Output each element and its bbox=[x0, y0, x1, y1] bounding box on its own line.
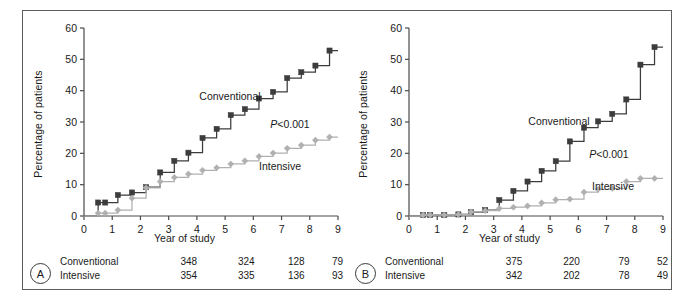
data-point-marker bbox=[539, 168, 544, 173]
series-line-intensive bbox=[84, 137, 338, 216]
risk-row-label: Intensive bbox=[385, 270, 469, 284]
risk-value: 136 bbox=[255, 270, 305, 284]
data-point-marker bbox=[298, 142, 304, 148]
data-point-marker bbox=[610, 111, 615, 116]
data-point-marker bbox=[524, 203, 530, 209]
data-point-marker bbox=[158, 170, 163, 175]
data-point-marker bbox=[172, 158, 177, 163]
data-point-marker bbox=[567, 139, 572, 144]
data-point-marker bbox=[525, 179, 530, 184]
table-row: Conventional 375 220 79 52 bbox=[385, 256, 668, 270]
data-point-marker bbox=[228, 161, 234, 167]
p-value-annotation: P<0.001 bbox=[589, 148, 629, 160]
panel-b-chart-svg: 01020304050600123456789ConventionalInten… bbox=[347, 10, 672, 248]
table-row: Intensive 354 335 136 93 bbox=[60, 270, 343, 284]
data-point-marker bbox=[214, 126, 219, 131]
panel-a-plot: Percentage of patients 01020304050600123… bbox=[22, 10, 347, 248]
risk-value: 354 bbox=[144, 270, 197, 284]
data-point-marker bbox=[313, 63, 318, 68]
risk-row-label: Conventional bbox=[60, 256, 144, 270]
curve-label-intensive: Intensive bbox=[592, 180, 634, 192]
data-point-marker bbox=[171, 174, 177, 180]
data-point-marker bbox=[638, 62, 643, 67]
risk-value: 324 bbox=[197, 256, 255, 270]
panel-a-risk-table-block: A Conventional 348 324 128 79 Intensive … bbox=[22, 255, 347, 291]
panel-a-x-axis-title: Year of study bbox=[22, 232, 347, 244]
y-tick-label: 20 bbox=[65, 147, 77, 159]
figure-root: Percentage of patients 01020304050600123… bbox=[0, 0, 695, 302]
panel-a-badge: A bbox=[30, 263, 51, 284]
data-point-marker bbox=[185, 171, 191, 177]
data-point-marker bbox=[129, 190, 134, 195]
data-point-marker bbox=[284, 145, 290, 151]
data-point-marker bbox=[270, 150, 276, 156]
panel-a-y-axis-title: Percentage of patients bbox=[32, 44, 44, 204]
data-point-marker bbox=[256, 153, 262, 159]
risk-value: 52 bbox=[630, 256, 668, 270]
data-point-marker bbox=[539, 200, 545, 206]
data-point-marker bbox=[553, 197, 559, 203]
data-point-marker bbox=[200, 135, 205, 140]
y-tick-label: 0 bbox=[396, 210, 402, 222]
data-point-marker bbox=[199, 167, 205, 173]
data-point-marker bbox=[595, 119, 600, 124]
y-tick-label: 60 bbox=[390, 22, 402, 34]
curve-label-conventional: Conventional bbox=[199, 90, 260, 102]
table-row: Conventional 348 324 128 79 bbox=[60, 256, 343, 270]
risk-value: 202 bbox=[522, 270, 580, 284]
panel-b: Percentage of patients 01020304050600123… bbox=[347, 10, 672, 290]
y-tick-label: 10 bbox=[65, 178, 77, 190]
panel-b-x-axis-title: Year of study bbox=[347, 232, 672, 244]
curve-label-conventional: Conventional bbox=[528, 115, 589, 127]
panel-b-badge: B bbox=[355, 263, 376, 284]
risk-value: 79 bbox=[305, 256, 343, 270]
data-point-marker bbox=[157, 178, 163, 184]
risk-value: 342 bbox=[469, 270, 522, 284]
data-point-marker bbox=[651, 175, 657, 181]
data-point-marker bbox=[553, 159, 558, 164]
series-line-conventional bbox=[84, 51, 338, 216]
curve-label-intensive: Intensive bbox=[259, 160, 301, 172]
data-point-marker bbox=[186, 150, 191, 155]
data-point-marker bbox=[497, 197, 502, 202]
y-tick-label: 30 bbox=[390, 116, 402, 128]
data-point-marker bbox=[312, 137, 318, 143]
data-point-marker bbox=[299, 70, 304, 75]
data-point-marker bbox=[581, 189, 587, 195]
risk-row-label: Conventional bbox=[385, 256, 469, 270]
risk-value: 348 bbox=[144, 256, 197, 270]
panel-b-risk-table: Conventional 375 220 79 52 Intensive 342… bbox=[385, 256, 668, 284]
data-point-marker bbox=[115, 192, 120, 197]
risk-row-label: Intensive bbox=[60, 270, 144, 284]
risk-value: 49 bbox=[630, 270, 668, 284]
data-point-marker bbox=[327, 48, 332, 53]
y-tick-label: 60 bbox=[65, 22, 77, 34]
data-point-marker bbox=[129, 195, 135, 201]
panel-b-plot: Percentage of patients 01020304050600123… bbox=[347, 10, 672, 248]
risk-value: 78 bbox=[580, 270, 630, 284]
y-tick-label: 0 bbox=[71, 210, 77, 222]
panel-b-y-axis-title: Percentage of patients bbox=[357, 44, 369, 204]
y-tick-label: 50 bbox=[390, 53, 402, 65]
y-tick-label: 30 bbox=[65, 116, 77, 128]
data-point-marker bbox=[285, 76, 290, 81]
y-tick-label: 10 bbox=[390, 178, 402, 190]
data-point-marker bbox=[115, 207, 121, 213]
risk-value: 220 bbox=[522, 256, 580, 270]
data-point-marker bbox=[95, 210, 101, 216]
data-point-marker bbox=[624, 97, 629, 102]
data-point-marker bbox=[103, 200, 108, 205]
risk-value: 128 bbox=[255, 256, 305, 270]
data-point-marker bbox=[652, 45, 657, 50]
p-value-annotation: P<0.001 bbox=[270, 118, 310, 130]
data-point-marker bbox=[228, 113, 233, 118]
data-point-marker bbox=[567, 196, 573, 202]
panel-a: Percentage of patients 01020304050600123… bbox=[22, 10, 347, 290]
y-tick-label: 50 bbox=[65, 53, 77, 65]
data-point-marker bbox=[242, 158, 248, 164]
data-point-marker bbox=[510, 204, 516, 210]
panel-a-chart-svg: 01020304050600123456789ConventionalInten… bbox=[22, 10, 347, 248]
y-tick-label: 40 bbox=[390, 84, 402, 96]
table-row: Intensive 342 202 78 49 bbox=[385, 270, 668, 284]
data-point-marker bbox=[511, 188, 516, 193]
